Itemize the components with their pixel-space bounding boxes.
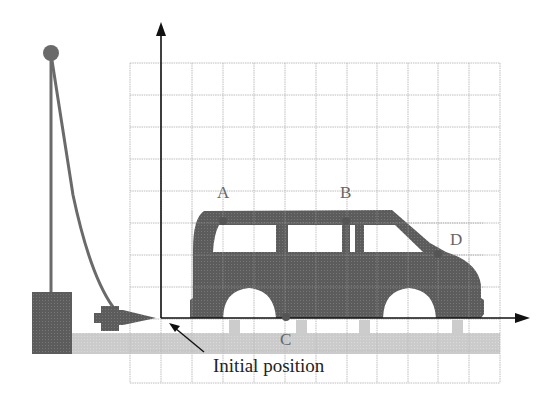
point-b-label: B xyxy=(340,183,351,202)
point-d-marker xyxy=(434,250,442,258)
point-b-marker xyxy=(342,217,350,225)
point-a-marker xyxy=(219,217,227,225)
point-c-label: C xyxy=(280,330,291,349)
initial-position-caption: Initial position xyxy=(213,355,325,376)
diagram-canvas: A B C D Initial position xyxy=(0,0,560,398)
point-c-marker xyxy=(282,313,290,321)
point-a-label: A xyxy=(217,183,230,202)
y-axis-arrowhead-icon xyxy=(156,22,166,36)
x-axis-arrowhead-icon xyxy=(515,313,530,323)
apparatus-base xyxy=(32,292,72,354)
point-d-label: D xyxy=(450,230,462,249)
car xyxy=(190,210,484,318)
impactor xyxy=(94,306,156,331)
pivot-icon xyxy=(43,45,59,61)
pendulum-apparatus xyxy=(32,45,156,354)
